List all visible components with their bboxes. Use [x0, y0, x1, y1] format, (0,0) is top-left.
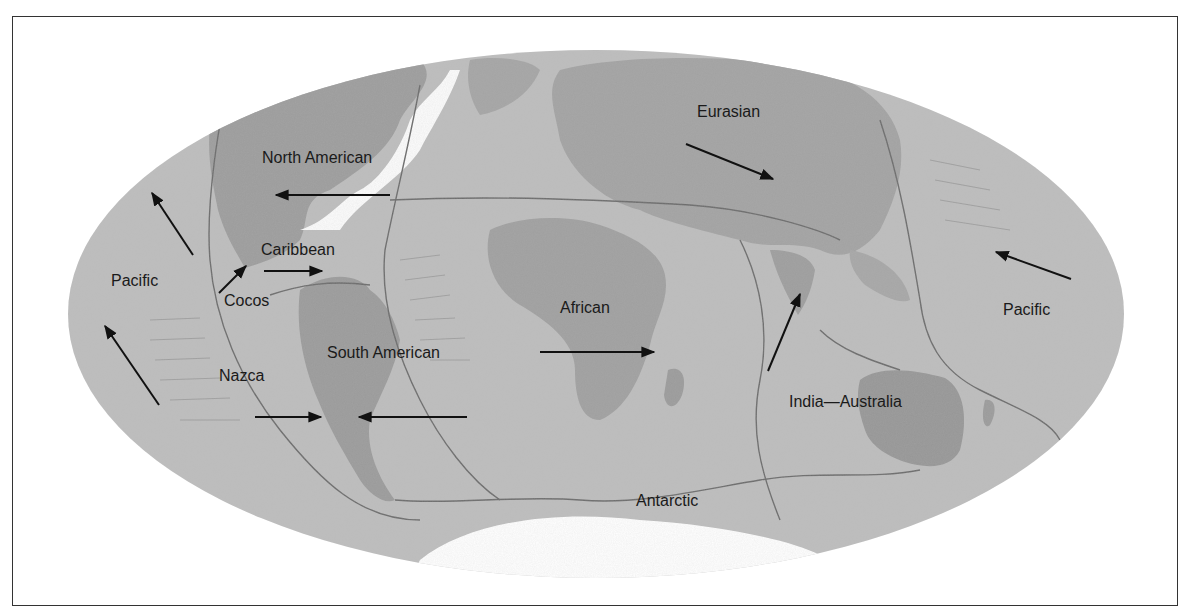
label-south-american: South American [327, 345, 440, 361]
label-antarctic: Antarctic [636, 493, 698, 509]
label-nazca: Nazca [219, 368, 264, 384]
label-north-american: North American [262, 150, 372, 166]
label-eurasian: Eurasian [697, 104, 760, 120]
label-african: African [560, 300, 610, 316]
label-india-australia: India—Australia [789, 394, 902, 410]
label-pacific-west: Pacific [111, 273, 158, 289]
label-caribbean: Caribbean [261, 242, 335, 258]
label-cocos: Cocos [224, 293, 269, 309]
label-pacific-east: Pacific [1003, 302, 1050, 318]
